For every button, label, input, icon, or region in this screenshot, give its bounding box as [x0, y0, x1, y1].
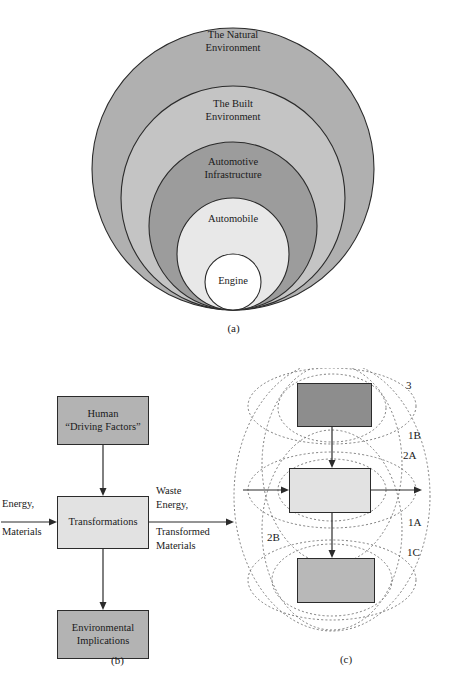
venn-label-3: 3	[406, 379, 412, 391]
output-label-energy: Energy,	[156, 499, 188, 511]
circle-label-built-1: The Built	[213, 98, 253, 109]
nested-circles-svg: The Natural Environment The Built Enviro…	[0, 0, 467, 340]
venn-label-1b: 1B	[408, 429, 421, 441]
flow-box-environmental-line1: Environmental	[72, 622, 134, 635]
venn-label-2b: 2B	[267, 531, 280, 543]
venn-box-bottom[interactable]	[297, 558, 375, 603]
circle-label-built-2: Environment	[206, 111, 261, 122]
caption-panel-b: (b)	[0, 654, 235, 666]
flow-box-environmental[interactable]: Environmental Implications	[57, 610, 149, 659]
circle-label-engine: Engine	[218, 275, 248, 286]
output-label-transformed: Transformed	[156, 526, 210, 538]
arrowhead-input-to-mid	[281, 487, 289, 494]
panel-b-flow-diagram: Human “Driving Factors” Transformations …	[0, 368, 235, 674]
venn-label-2a: 2A	[403, 449, 416, 461]
figure-root: The Natural Environment The Built Enviro…	[0, 0, 467, 674]
circle-label-natural-1: The Natural	[208, 29, 259, 40]
caption-panel-a: (a)	[0, 322, 467, 334]
venn-box-top[interactable]	[297, 383, 372, 427]
panel-a-nested-circles: The Natural Environment The Built Enviro…	[0, 0, 467, 340]
venn-box-middle[interactable]	[289, 468, 371, 513]
output-label-waste: Waste	[156, 485, 181, 497]
flow-box-human-line2: “Driving Factors”	[65, 421, 141, 434]
arrowhead-top-to-mid	[329, 460, 336, 468]
circle-label-automotive-1: Automotive	[208, 156, 259, 167]
circle-label-automobile: Automobile	[208, 213, 259, 224]
arrowhead-right-input	[49, 519, 57, 526]
venn-label-1c: 1C	[407, 546, 420, 558]
flow-box-human[interactable]: Human “Driving Factors”	[57, 396, 149, 445]
output-label-materials: Materials	[156, 540, 196, 552]
arrowhead-down-to-transformations	[100, 488, 107, 496]
input-label-energy: Energy,	[2, 498, 34, 510]
arrowhead-mid-to-bottom	[329, 550, 336, 558]
circle-label-automotive-2: Infrastructure	[204, 169, 261, 180]
circle-label-natural-2: Environment	[206, 42, 261, 53]
input-label-materials: Materials	[2, 526, 42, 538]
flow-box-human-line1: Human	[88, 408, 119, 421]
venn-label-1a: 1A	[408, 516, 421, 528]
caption-panel-c: (c)	[225, 653, 467, 665]
arrowhead-down-to-environmental	[100, 602, 107, 610]
flow-box-transformations[interactable]: Transformations	[57, 496, 149, 549]
flow-box-environmental-line2: Implications	[77, 635, 130, 648]
panel-c-venn-diagram: 3 1B 2A 1A 2B 1C (c)	[225, 368, 467, 674]
flow-box-transformations-line1: Transformations	[68, 516, 137, 529]
arrowhead-mid-to-output	[414, 487, 422, 494]
